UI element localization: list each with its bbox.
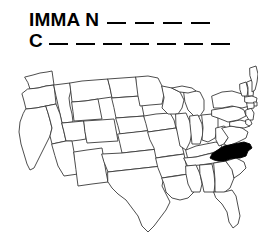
state-montana[interactable] — [70, 79, 112, 102]
letter-blank-line1-3[interactable] — [163, 22, 182, 24]
letter-blank-line2-1[interactable] — [49, 43, 68, 45]
puzzle-line-2: C — [0, 27, 258, 51]
state-north-dakota[interactable] — [108, 77, 140, 98]
letter-blank-line2-3[interactable] — [103, 43, 122, 45]
state-colorado[interactable] — [84, 119, 118, 143]
letter-blank-line1-1[interactable] — [107, 22, 126, 24]
letter-blank-line2-7[interactable] — [211, 43, 230, 45]
puzzle-screen: IMMA N C — [0, 0, 258, 252]
state-minnesota[interactable] — [136, 76, 164, 106]
state-utah[interactable] — [62, 121, 86, 141]
state-connecticut[interactable] — [247, 103, 254, 109]
state-california[interactable] — [19, 106, 52, 170]
letter-blank-line1-4[interactable] — [191, 22, 210, 24]
state-new-jersey[interactable] — [246, 108, 254, 120]
letter-blank-line2-6[interactable] — [184, 43, 203, 45]
state-arizona[interactable] — [52, 141, 78, 176]
us-map-svg — [0, 58, 258, 252]
state-florida[interactable] — [214, 190, 240, 228]
state-indiana[interactable] — [190, 115, 203, 144]
puzzle-line-2-prefix: C — [29, 31, 43, 51]
state-wyoming[interactable] — [72, 99, 102, 121]
puzzle-prompt: IMMA N C — [0, 0, 258, 60]
letter-blank-line2-4[interactable] — [130, 43, 149, 45]
letter-blank-line1-2[interactable] — [135, 22, 154, 24]
puzzle-line-2-blanks[interactable] — [49, 27, 238, 47]
letter-blank-line2-5[interactable] — [157, 43, 176, 45]
letter-blank-line2-2[interactable] — [76, 43, 95, 45]
state-vermont[interactable] — [240, 82, 248, 96]
us-map — [0, 58, 258, 252]
puzzle-line-1-blanks[interactable] — [107, 6, 219, 26]
state-alabama[interactable] — [200, 164, 215, 192]
state-michigan[interactable] — [184, 90, 204, 116]
